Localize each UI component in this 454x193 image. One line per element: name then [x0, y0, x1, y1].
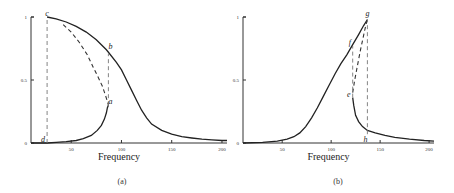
panel-caption: (a) [118, 177, 127, 186]
x-tick-label: 50 [280, 147, 286, 152]
point-label-e: e [347, 90, 351, 99]
panel-caption: (b) [333, 177, 343, 186]
y-tick-label: 0 [25, 141, 28, 146]
x-tick-label: 200 [425, 147, 433, 152]
point-label-a: a [108, 97, 112, 106]
panel-a: 5010015020000.51cbadFrequency(a) [21, 9, 227, 186]
point-label-g: g [365, 9, 369, 18]
series-unstable-branch [63, 25, 108, 106]
x-tick-label: 150 [168, 147, 176, 152]
panel-b: 5010015020000.51gfehFrequency(b) [233, 9, 434, 186]
point-label-b: b [108, 42, 112, 51]
figure: 5010015020000.51cbadFrequency(a) 5010015… [0, 0, 454, 193]
point-label-h: h [363, 135, 367, 144]
x-tick-label: 50 [69, 147, 75, 152]
y-tick-label: 0.5 [21, 78, 28, 83]
x-axis-label: Frequency [307, 151, 349, 162]
x-axis-label: Frequency [98, 151, 140, 162]
series-unstable-branch [353, 20, 368, 93]
point-label-c: c [45, 9, 49, 18]
x-tick-label: 200 [218, 147, 226, 152]
y-tick-label: 1 [237, 15, 240, 20]
y-tick-label: 0 [237, 141, 240, 146]
y-tick-label: 1 [25, 15, 28, 20]
y-tick-label: 0.5 [233, 78, 240, 83]
x-tick-label: 150 [376, 147, 384, 152]
